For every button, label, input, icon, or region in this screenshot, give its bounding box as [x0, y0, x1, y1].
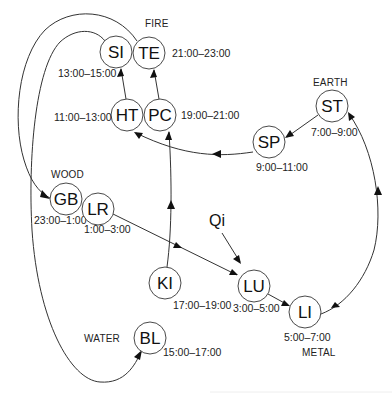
time-label: 1:00–3:00 [84, 223, 131, 235]
time-label: 21:00–23:00 [172, 47, 231, 59]
edge-li-st [321, 114, 378, 314]
arrowhead-icon [281, 300, 290, 306]
node-label: SP [258, 133, 281, 152]
edge-ki-pc [167, 132, 171, 267]
node-st: ST 7:00–9:00 [311, 90, 358, 138]
time-label: 17:00–19:00 [173, 299, 232, 311]
arrowhead-icon [165, 131, 172, 140]
time-label: 7:00–9:00 [311, 126, 358, 138]
nodes: SI 13:00–15:00 TE 21:00–23:00 HT 11:00–1… [34, 36, 358, 358]
node-lr: LR 1:00–3:00 [82, 193, 131, 235]
node-label: ST [321, 97, 343, 116]
node-label: PC [148, 106, 172, 125]
time-label: 23:00–1:00 [34, 214, 87, 226]
arrowhead-icon [173, 242, 182, 248]
node-label: LI [298, 303, 312, 322]
node-lu: LU 3:00–5:00 [233, 270, 280, 314]
node-li: LI 5:00–7:00 [284, 296, 331, 343]
arrowhead-icon [331, 302, 340, 308]
node-ht: HT 11:00–13:00 [54, 99, 143, 131]
arrowhead-icon [285, 130, 294, 138]
node-label: GB [54, 190, 79, 209]
node-gb: GB 23:00–1:00 [34, 183, 87, 226]
node-label: LR [87, 200, 109, 219]
element-label-earth: EARTH [313, 77, 348, 88]
time-label: 9:00–11:00 [256, 161, 308, 173]
time-label: 5:00–7:00 [284, 331, 331, 343]
arrowhead-icon [348, 112, 355, 121]
element-label-wood: WOOD [51, 169, 84, 180]
node-te: TE 21:00–23:00 [133, 37, 231, 69]
time-label: 15:00–17:00 [163, 346, 222, 358]
node-sp: SP 9:00–11:00 [253, 126, 308, 173]
arrowhead-icon [150, 69, 157, 78]
arrowhead-icon [374, 186, 382, 195]
element-label-fire: FIRE [145, 18, 169, 29]
node-label: LU [243, 277, 265, 296]
node-label: BL [140, 329, 161, 348]
node-label: KI [157, 274, 173, 293]
node-label: TE [138, 44, 160, 63]
time-label: 3:00–5:00 [233, 302, 280, 314]
time-label: 19:00–21:00 [181, 109, 240, 121]
node-bl: BL 15:00–17:00 [134, 322, 222, 358]
time-label: 13:00–15:00 [58, 67, 117, 79]
meridian-diagram: FIRE EARTH WOOD WATER METAL SI 13:00–15:… [0, 0, 392, 393]
element-label-water: WATER [84, 333, 120, 344]
element-label-metal: METAL [302, 347, 336, 358]
time-label: 11:00–13:00 [54, 111, 112, 123]
node-pc: PC 19:00–21:00 [144, 99, 240, 131]
node-label: HT [116, 106, 139, 125]
arrowhead-icon [167, 200, 175, 209]
node-ki: KI 17:00–19:00 [149, 267, 232, 311]
arrowhead-icon [117, 68, 124, 77]
node-label: SI [108, 43, 124, 62]
edge-sp-ht [136, 133, 253, 155]
arrowhead-icon [233, 255, 241, 264]
qi-label: Qi [209, 212, 225, 229]
arrowhead-icon [212, 150, 221, 158]
